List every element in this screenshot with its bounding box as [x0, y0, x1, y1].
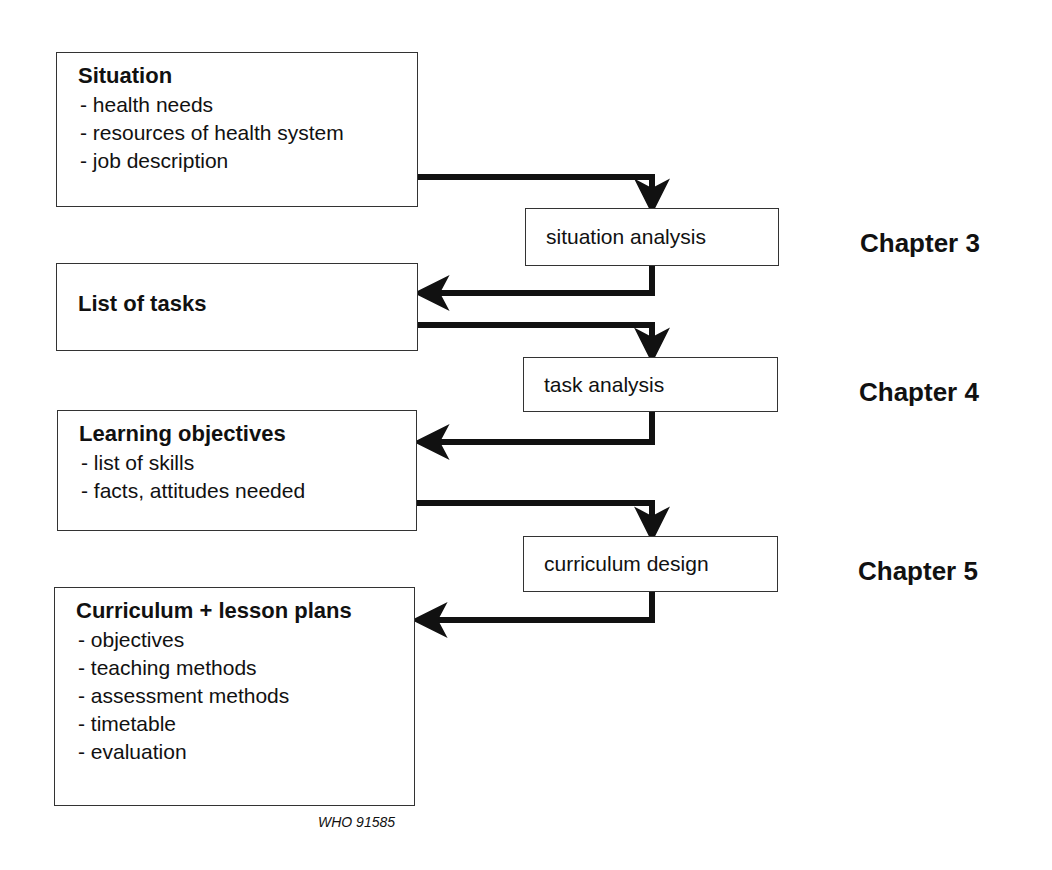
arrow-curriculum-design-to-curriculum-plans: [426, 592, 652, 620]
curriculum-plans-title: Curriculum + lesson plans: [76, 598, 414, 624]
task-analysis-box: task analysis: [523, 357, 778, 412]
task-analysis-label: task analysis: [544, 373, 664, 397]
chapter-4-label: Chapter 4: [859, 377, 979, 408]
curriculum-design-label: curriculum design: [544, 552, 709, 576]
learning-objectives-item: - list of skills: [79, 449, 416, 477]
curriculum-plans-item: - timetable: [76, 710, 414, 738]
arrow-task-analysis-to-learning-objectives: [428, 412, 652, 442]
curriculum-plans-item: - assessment methods: [76, 682, 414, 710]
curriculum-plans-item: - evaluation: [76, 738, 414, 766]
arrow-learning-objectives-to-curriculum-design: [417, 503, 652, 528]
situation-analysis-label: situation analysis: [546, 225, 706, 249]
chapter-3-label: Chapter 3: [860, 228, 980, 259]
curriculum-plans-box: Curriculum + lesson plans - objectives -…: [54, 587, 415, 806]
situation-analysis-box: situation analysis: [525, 208, 779, 266]
list-of-tasks-title: List of tasks: [78, 291, 417, 317]
figure-code: WHO 91585: [318, 814, 395, 830]
arrow-list-of-tasks-to-task-analysis: [418, 325, 652, 349]
arrow-situation-analysis-to-list-of-tasks: [428, 266, 652, 293]
curriculum-plans-item: - objectives: [76, 626, 414, 654]
situation-box: Situation - health needs - resources of …: [56, 52, 418, 207]
learning-objectives-title: Learning objectives: [79, 421, 416, 447]
chapter-5-label: Chapter 5: [858, 556, 978, 587]
situation-item: - resources of health system: [78, 119, 417, 147]
situation-title: Situation: [78, 63, 417, 89]
learning-objectives-box: Learning objectives - list of skills - f…: [57, 410, 417, 531]
situation-item: - health needs: [78, 91, 417, 119]
curriculum-plans-item: - teaching methods: [76, 654, 414, 682]
arrow-situation-to-situation-analysis: [418, 177, 652, 200]
learning-objectives-item: - facts, attitudes needed: [79, 477, 416, 505]
curriculum-design-box: curriculum design: [523, 536, 778, 592]
situation-item: - job description: [78, 147, 417, 175]
list-of-tasks-box: List of tasks: [56, 263, 418, 351]
